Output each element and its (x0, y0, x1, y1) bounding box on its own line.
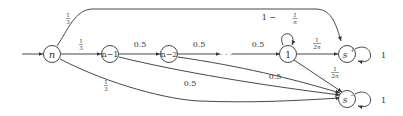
label-n2-sminus: 0.5 (269, 72, 282, 81)
markov-chain-diagram: n n−1 n−2 · · · 1 s + s − 1 3 1 3 1 3 (0, 0, 403, 116)
svg-text:1: 1 (66, 12, 70, 18)
svg-text:−: − (350, 91, 355, 98)
svg-text:2n: 2n (312, 44, 320, 50)
svg-text:3: 3 (104, 86, 108, 92)
svg-text:1: 1 (315, 37, 319, 43)
svg-text:1: 1 (104, 79, 108, 85)
svg-text:· · ·: · · · (220, 50, 233, 59)
svg-text:n: n (49, 49, 55, 60)
node-dots: · · · (220, 50, 233, 59)
svg-text:3: 3 (66, 19, 70, 25)
label-n1-sminus: 0.5 (184, 79, 197, 88)
label-n2-dots: 0.5 (193, 40, 206, 49)
node-s-plus: s + (339, 46, 356, 63)
edge-sminus-loop (355, 92, 371, 107)
edge-n-sminus (60, 59, 340, 102)
edge-1-loop (282, 34, 293, 45)
label-n-n1: 1 3 (79, 38, 83, 51)
node-n: n (44, 46, 61, 63)
svg-text:s: s (343, 95, 348, 105)
svg-text:1: 1 (285, 50, 291, 60)
edge-n1-sminus (119, 57, 340, 95)
svg-text:2n: 2n (330, 73, 338, 79)
label-sminus-loop: 1 (381, 96, 386, 105)
svg-text:n−1: n−1 (102, 50, 119, 59)
label-n-splus: 1 3 (66, 12, 70, 25)
node-n-minus-1: n−1 (102, 46, 119, 63)
node-n-minus-2: n−2 (161, 46, 178, 63)
svg-text:n: n (293, 19, 297, 25)
svg-text:1: 1 (333, 66, 337, 72)
label-splus-loop: 1 (381, 51, 386, 60)
label-1-loop: 1 − 1 n (262, 12, 298, 25)
svg-text:1: 1 (293, 12, 297, 18)
edge-splus-loop (355, 47, 371, 62)
svg-text:+: + (350, 46, 355, 53)
label-dots-1: 0.5 (252, 40, 265, 49)
node-1: 1 (280, 46, 297, 63)
svg-text:n−2: n−2 (161, 50, 178, 59)
svg-text:1 −: 1 − (262, 13, 276, 22)
node-s-minus: s − (339, 91, 356, 108)
svg-text:1: 1 (79, 38, 83, 44)
svg-text:s: s (343, 50, 348, 60)
label-n1-n2: 0.5 (134, 40, 147, 49)
label-n-sminus: 1 3 (104, 79, 108, 92)
label-1-sminus: 1 2n (330, 66, 339, 79)
label-1-splus: 1 2n (312, 37, 321, 50)
svg-text:3: 3 (79, 45, 83, 51)
